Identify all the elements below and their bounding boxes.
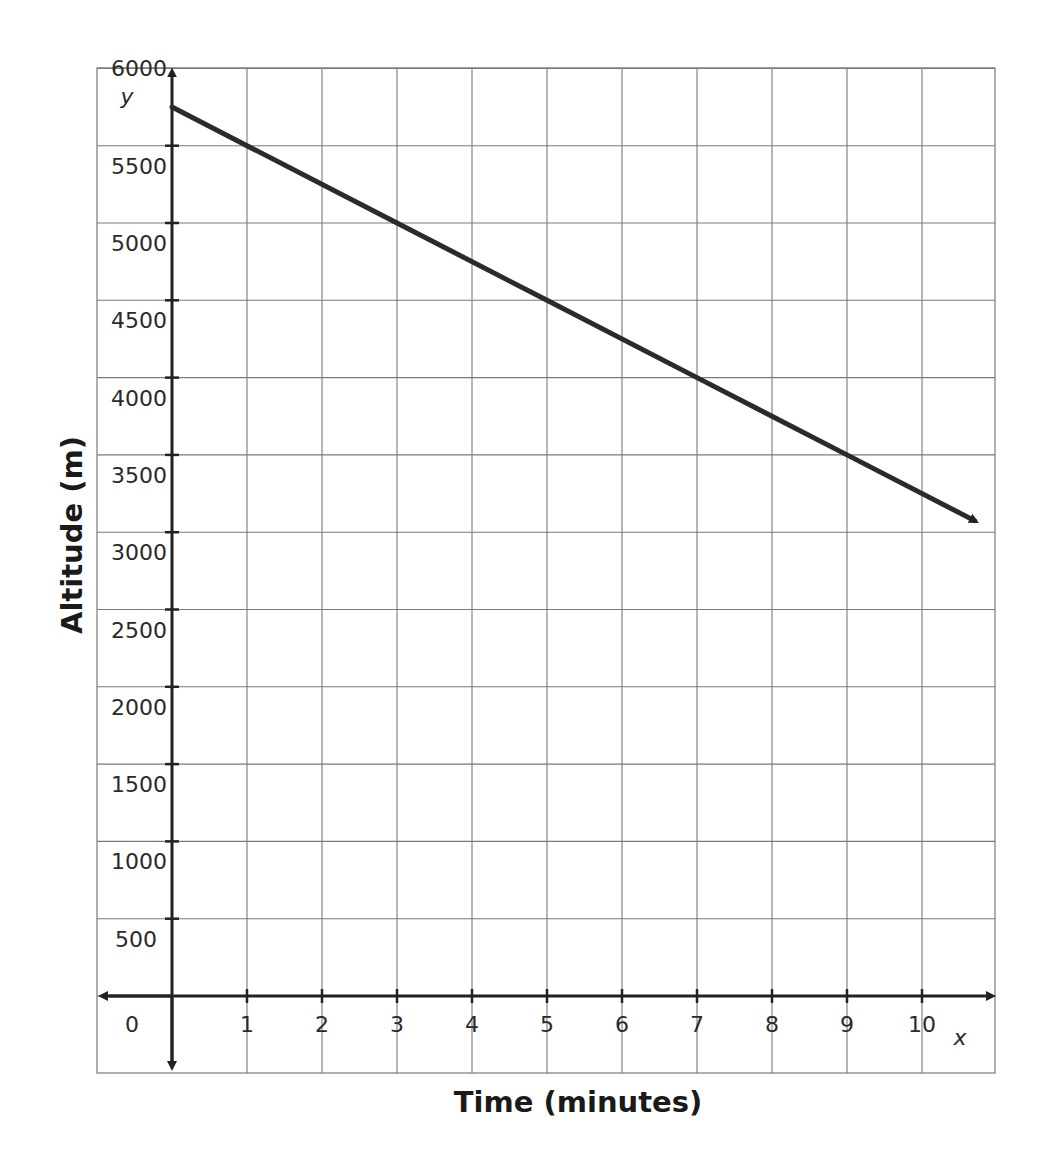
y-tick-label: 5500 <box>111 154 167 179</box>
axis-ticks <box>165 146 922 1003</box>
x-axis-variable: x <box>952 1025 967 1050</box>
y-tick-label: 4500 <box>111 308 167 333</box>
altitude-chart: 012345678910 500100015002000250030003500… <box>0 0 1054 1162</box>
y-tick-label: 3500 <box>111 463 167 488</box>
data-series <box>172 107 975 521</box>
x-tick-label: 1 <box>240 1012 254 1037</box>
x-tick-label: 0 <box>125 1012 139 1037</box>
y-axis-variable: y <box>119 84 134 109</box>
y-tick-label: 3000 <box>111 540 167 565</box>
grid-lines <box>97 68 995 1073</box>
y-tick-label: 1500 <box>111 772 167 797</box>
x-tick-label: 6 <box>615 1012 629 1037</box>
x-axis-title: Time (minutes) <box>454 1085 702 1119</box>
x-tick-label: 3 <box>390 1012 404 1037</box>
y-tick-label: 500 <box>115 927 157 952</box>
x-tick-label: 10 <box>908 1012 936 1037</box>
grid-border <box>97 68 995 1073</box>
y-tick-label: 5000 <box>111 231 167 256</box>
y-axis-title: Altitude (m) <box>55 436 89 634</box>
y-tick-label: 1000 <box>111 849 167 874</box>
y-tick-label: 4000 <box>111 386 167 411</box>
x-tick-label: 8 <box>765 1012 779 1037</box>
x-tick-label: 9 <box>840 1012 854 1037</box>
y-tick-label: 2500 <box>111 618 167 643</box>
x-tick-label: 7 <box>690 1012 704 1037</box>
x-tick-labels: 012345678910 <box>125 1012 936 1037</box>
y-tick-label: 2000 <box>111 695 167 720</box>
x-tick-label: 5 <box>540 1012 554 1037</box>
y-tick-labels: 5001000150020002500300035004000450050005… <box>111 56 167 951</box>
x-tick-label: 4 <box>465 1012 479 1037</box>
altitude-line <box>172 107 975 521</box>
x-tick-label: 2 <box>315 1012 329 1037</box>
y-tick-label: 6000 <box>111 56 167 81</box>
